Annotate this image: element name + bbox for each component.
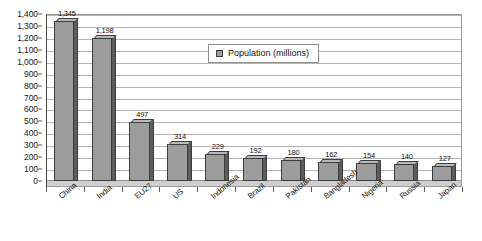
bar-side-face — [112, 35, 116, 181]
x-tick-mark — [386, 187, 387, 192]
x-tick-mark — [273, 187, 274, 192]
y-tick-mark — [38, 14, 42, 15]
y-tick-mark — [38, 133, 42, 134]
bar-front-face — [243, 158, 263, 181]
bar-front-face — [281, 160, 301, 181]
y-tick-mark — [38, 109, 42, 110]
bar[interactable] — [318, 162, 338, 181]
x-tick-mark — [424, 187, 425, 192]
bar-slot: 162 — [312, 15, 350, 181]
bar-front-face — [54, 21, 74, 181]
bar-front-face — [92, 38, 112, 181]
bar-slot: 1,345 — [47, 15, 85, 181]
y-tick-label: 700 — [24, 93, 38, 103]
bar-top-face — [168, 141, 192, 145]
bar-top-face — [358, 160, 382, 164]
bar[interactable] — [129, 122, 149, 181]
bar-value-label: 192 — [250, 146, 262, 155]
plot-area: 1,3451,198497314229192180162154140127 — [46, 14, 462, 187]
y-tick-mark — [38, 25, 42, 26]
bar-top-face — [395, 161, 419, 165]
bar-value-label: 154 — [363, 151, 375, 160]
y-tick-label: 200 — [24, 152, 38, 162]
y-tick-mark — [38, 169, 42, 170]
y-tick-label: 600 — [24, 104, 38, 114]
bar-top-face — [206, 151, 230, 155]
bar-top-face — [93, 35, 117, 39]
y-tick-mark — [38, 121, 42, 122]
bar-slot: 140 — [387, 15, 425, 181]
bar-slot: 127 — [425, 15, 463, 181]
bar-top-face — [55, 18, 79, 22]
bar-slot: 180 — [274, 15, 312, 181]
x-tick-label: US — [171, 187, 185, 201]
bar-slot: 497 — [123, 15, 161, 181]
bar-front-face — [205, 154, 225, 181]
x-axis: ChinaIndiaEU27USIndonesiaBrazilPakistanB… — [46, 187, 462, 241]
y-tick-label: 900 — [24, 69, 38, 79]
bar-value-label: 127 — [439, 154, 451, 163]
bar[interactable] — [92, 38, 112, 181]
y-tick-label: 800 — [24, 81, 38, 91]
bar-slot: 229 — [198, 15, 236, 181]
y-tick-mark — [38, 97, 42, 98]
y-tick-label: 400 — [24, 128, 38, 138]
bar[interactable] — [243, 158, 263, 181]
bar-front-face — [129, 122, 149, 181]
legend-label-population: Population (millions) — [228, 48, 309, 58]
x-tick-mark — [84, 187, 85, 192]
bar-top-face — [131, 119, 155, 123]
y-tick-mark — [38, 61, 42, 62]
bar-side-face — [188, 141, 192, 181]
bar-value-label: 140 — [401, 152, 413, 161]
y-tick-mark — [38, 181, 42, 182]
bar-slot: 154 — [350, 15, 388, 181]
y-tick-mark — [38, 73, 42, 74]
bar-front-face — [167, 144, 187, 181]
bar-series-population: 1,3451,198497314229192180162154140127 — [47, 15, 461, 181]
bar-value-label: 497 — [136, 110, 148, 119]
y-tick-label: 100 — [24, 164, 38, 174]
y-tick-label: 500 — [24, 116, 38, 126]
bar-side-face — [74, 18, 78, 181]
y-axis: 1,4001,3001,2001,1001,000900800700600500… — [0, 10, 42, 188]
y-tick-mark — [38, 85, 42, 86]
legend-swatch-population — [216, 50, 223, 57]
x-tick-mark — [46, 187, 47, 192]
bar-slot: 314 — [160, 15, 198, 181]
y-tick-mark — [38, 157, 42, 158]
bar[interactable] — [432, 166, 452, 181]
bar-slot: 192 — [236, 15, 274, 181]
bar-front-face — [356, 163, 376, 181]
y-tick-label: 1,200 — [17, 33, 38, 43]
bar-value-label: 314 — [174, 132, 186, 141]
bar-front-face — [318, 162, 338, 181]
bar[interactable] — [54, 21, 74, 181]
bar-value-label: 1,198 — [96, 26, 114, 35]
x-tick-mark — [159, 187, 160, 192]
bar-value-label: 180 — [287, 148, 299, 157]
bar[interactable] — [281, 160, 301, 181]
bar[interactable] — [167, 144, 187, 181]
population-bar-chart: 1,4001,3001,2001,1001,000900800700600500… — [0, 0, 482, 241]
x-tick-mark — [235, 187, 236, 192]
y-tick-label: 1,100 — [17, 45, 38, 55]
y-tick-mark — [38, 37, 42, 38]
bar[interactable] — [356, 163, 376, 181]
bar-top-face — [320, 159, 344, 163]
bar-front-face — [432, 166, 452, 181]
y-tick-label: 1,300 — [17, 21, 38, 31]
bar-value-label: 1,345 — [58, 9, 76, 18]
x-tick-mark — [197, 187, 198, 192]
bar-top-face — [433, 163, 457, 167]
y-tick-label: 1,400 — [17, 9, 38, 19]
bar-top-face — [244, 155, 268, 159]
y-tick-label: 1,000 — [17, 57, 38, 67]
bar[interactable] — [205, 154, 225, 181]
bar-value-label: 229 — [212, 142, 224, 151]
bar-value-label: 162 — [325, 150, 337, 159]
x-tick-mark — [311, 187, 312, 192]
y-tick-mark — [38, 49, 42, 50]
x-tick-mark — [122, 187, 123, 192]
bar[interactable] — [394, 164, 414, 181]
